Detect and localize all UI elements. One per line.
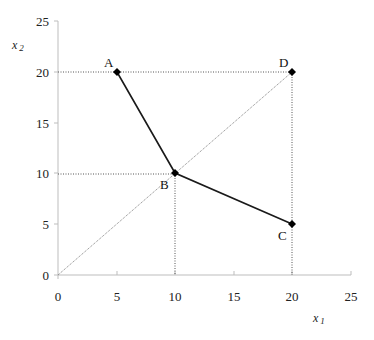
y-tick-label: 20 <box>36 65 49 80</box>
y-tick-label: 25 <box>36 14 49 29</box>
y-axis-title: x2 <box>11 38 24 53</box>
chart: 0 5 10 15 20 25 0 5 10 15 20 25 x2 x1 <box>0 0 374 340</box>
marker-b <box>171 169 179 177</box>
x-tick-label: 25 <box>345 289 358 304</box>
label-d: D <box>279 55 288 70</box>
y-tick-label: 5 <box>43 217 50 232</box>
y-tick-label: 10 <box>36 166 49 181</box>
axes <box>54 21 351 279</box>
x-tick-label: 10 <box>169 289 182 304</box>
svg-text:x2: x2 <box>11 38 24 53</box>
y-tick-label: 0 <box>43 268 50 283</box>
svg-text:x1: x1 <box>312 311 325 326</box>
x-tick-label: 15 <box>228 289 241 304</box>
marker-c <box>288 220 296 228</box>
y-ticks <box>54 21 58 275</box>
x-tick-labels: 0 5 10 15 20 25 <box>55 289 358 304</box>
label-b: B <box>160 177 169 192</box>
label-c: C <box>278 228 287 243</box>
x-tick-label: 20 <box>286 289 299 304</box>
marker-d <box>288 68 296 76</box>
point-labels: A B C D <box>104 55 288 243</box>
y-tick-label: 15 <box>36 116 49 131</box>
x-axis-title: x1 <box>312 311 325 326</box>
x-tick-label: 0 <box>55 289 62 304</box>
label-a: A <box>104 55 114 70</box>
x-tick-label: 5 <box>114 289 121 304</box>
marker-a <box>113 68 121 76</box>
y-tick-labels: 0 5 10 15 20 25 <box>36 14 49 283</box>
